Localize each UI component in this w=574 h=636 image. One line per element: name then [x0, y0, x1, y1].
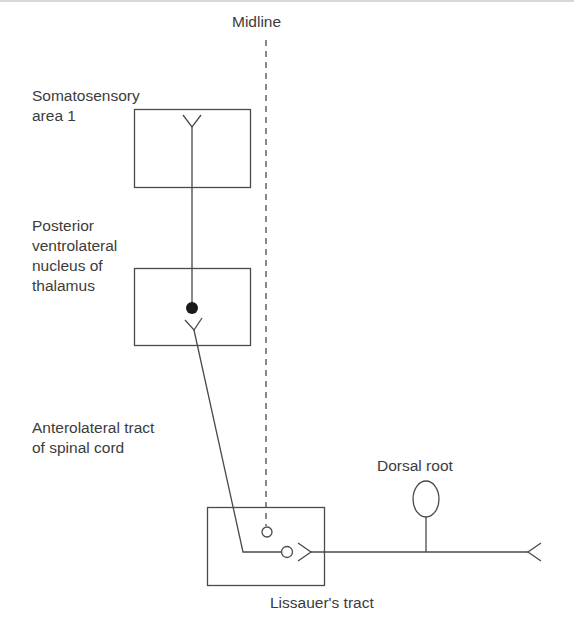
dorsal-root-ganglion-icon: [413, 481, 439, 517]
somatosensory-label-line2: area 1: [32, 106, 76, 125]
dendrite-terminal-icon: [185, 318, 202, 330]
pvl-label-line3: nucleus of: [32, 256, 103, 275]
thalamic-neuron-cell-body-icon: [186, 302, 198, 314]
pvl-label-line1: Posterior: [32, 216, 94, 235]
dorsal-root-label: Dorsal root: [377, 456, 453, 475]
synapse-chevron-icon: [298, 543, 311, 561]
spinal-cord-box: [208, 508, 325, 586]
pvl-label-line2: ventrolateral: [32, 236, 117, 255]
somatosensory-label-line1: Somatosensory: [32, 86, 140, 105]
contralateral-neuron-icon: [262, 527, 272, 537]
receptor-ending-icon: [528, 543, 541, 561]
anterolateral-label-line2: of spinal cord: [32, 438, 124, 457]
lissauer-tract-label: Lissauer's tract: [270, 593, 374, 612]
axon-terminal-icon: [183, 115, 201, 127]
midline-label: Midline: [232, 12, 281, 31]
anterolateral-label-line1: Anterolateral tract: [32, 418, 154, 437]
pvl-label-line4: thalamus: [32, 276, 95, 295]
second-order-neuron-icon: [282, 547, 293, 558]
